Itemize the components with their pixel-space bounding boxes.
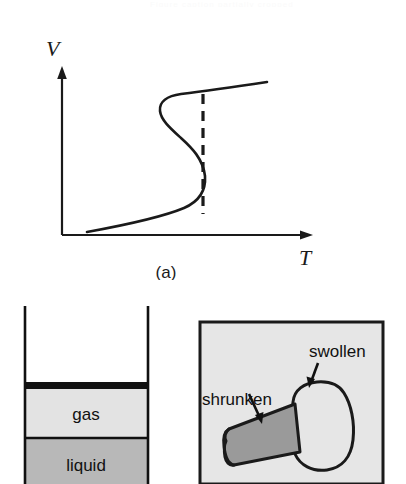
liquid-label: liquid <box>66 456 106 475</box>
x-axis-label: T <box>299 245 313 270</box>
gel-figure: shrunken swollen <box>190 312 406 484</box>
piston-bar <box>24 382 149 389</box>
chart-panel-a: V T (a) <box>0 10 406 280</box>
vt-curve <box>87 82 267 232</box>
cropped-header-text: Figure caption partially cropped <box>150 0 390 7</box>
shrunken-label: shrunken <box>202 390 272 409</box>
gas-label: gas <box>72 405 99 424</box>
y-axis <box>57 66 67 235</box>
x-axis <box>62 230 313 239</box>
swollen-label: swollen <box>309 342 366 361</box>
panel-caption-a: (a) <box>156 263 177 280</box>
y-axis-label: V <box>46 36 62 61</box>
swollen-blob <box>292 382 354 470</box>
container-figure: gas liquid <box>0 296 175 484</box>
